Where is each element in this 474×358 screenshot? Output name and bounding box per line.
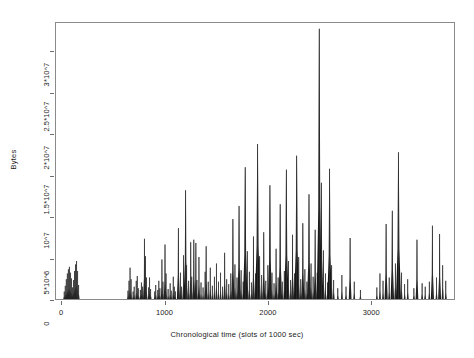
x-tick-label: 1000 bbox=[135, 308, 195, 317]
x-axis-title: Chronological time (slots of 1000 sec) bbox=[0, 330, 474, 339]
plot-area bbox=[55, 22, 455, 300]
y-tick-mark bbox=[50, 134, 54, 135]
y-tick-label: 2.5*10^7 bbox=[42, 92, 51, 140]
x-tick-mark bbox=[165, 301, 166, 305]
y-tick-mark bbox=[50, 217, 54, 218]
x-tick-mark bbox=[61, 301, 62, 305]
x-tick-label: 3000 bbox=[341, 308, 401, 317]
x-tick-label: 0 bbox=[31, 308, 91, 317]
y-tick-label: 5*10^6 bbox=[42, 258, 51, 306]
y-axis-title: Bytes bbox=[9, 138, 18, 182]
y-tick-label: 3*10^7 bbox=[42, 51, 51, 99]
spike-series bbox=[56, 23, 454, 299]
x-tick-mark bbox=[268, 301, 269, 305]
x-tick-label: 2000 bbox=[238, 308, 298, 317]
y-tick-mark bbox=[50, 176, 54, 177]
y-tick-label: 10^7 bbox=[42, 217, 51, 265]
y-tick-mark bbox=[50, 93, 54, 94]
y-tick-label: 2*10^7 bbox=[42, 134, 51, 182]
y-tick-label: 1.5*10^7 bbox=[42, 175, 51, 223]
y-tick-mark bbox=[50, 300, 54, 301]
x-tick-mark bbox=[371, 301, 372, 305]
y-tick-label: 0 bbox=[42, 300, 51, 348]
y-tick-mark bbox=[50, 259, 54, 260]
chart-figure: Bytes 05*10^610^71.5*10^72*10^72.5*10^73… bbox=[0, 0, 474, 358]
y-tick-mark bbox=[50, 51, 54, 52]
